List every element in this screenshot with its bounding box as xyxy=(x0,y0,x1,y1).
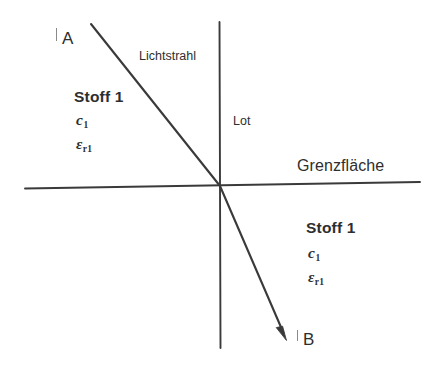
upper-medium-permittivity-base: ε xyxy=(76,135,82,152)
interface-line xyxy=(25,182,420,189)
point-b-tick-mark xyxy=(297,330,298,341)
upper-medium-speed-symbol: c1 xyxy=(76,112,88,130)
upper-medium-permittivity-subscript: r1 xyxy=(83,144,92,154)
normal-label: Lot xyxy=(233,115,250,128)
ray-direction-arrowhead xyxy=(276,326,286,340)
lower-medium-permittivity-base: ε xyxy=(308,268,314,285)
upper-medium-speed-subscript: 1 xyxy=(83,120,88,130)
diagram-canvas xyxy=(0,0,437,378)
upper-medium-speed-base: c xyxy=(76,111,83,128)
lower-medium-speed-subscript: 1 xyxy=(315,253,320,263)
upper-medium-permittivity-symbol: εr1 xyxy=(76,136,92,154)
lower-medium-speed-symbol: c1 xyxy=(308,245,320,263)
point-b-label: B xyxy=(303,331,315,348)
upper-medium-name: Stoff 1 xyxy=(74,89,124,105)
point-a-label: A xyxy=(62,30,74,47)
point-a-tick-mark xyxy=(56,28,57,41)
lower-medium-speed-base: c xyxy=(308,244,315,261)
lower-medium-permittivity-subscript: r1 xyxy=(315,277,324,287)
lower-medium-permittivity-symbol: εr1 xyxy=(308,269,324,287)
refraction-diagram: A Lichtstrahl Lot Grenzfläche Stoff 1 c1… xyxy=(0,0,437,378)
lower-medium-name: Stoff 1 xyxy=(306,220,356,236)
interface-label: Grenzfläche xyxy=(297,158,384,174)
refracted-ray-line xyxy=(220,186,284,333)
light-ray-label: Lichtstrahl xyxy=(139,50,196,63)
